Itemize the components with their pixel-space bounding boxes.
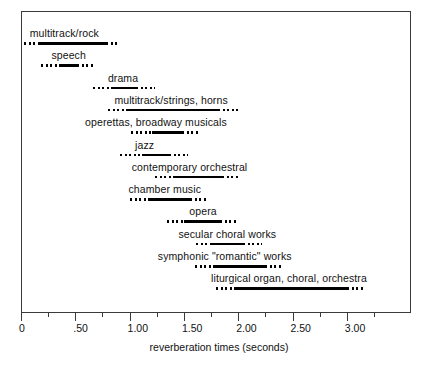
- axis-tick-label: 1.00: [128, 322, 148, 335]
- plot-frame: [21, 11, 411, 313]
- axis-tick-major: [21, 313, 22, 321]
- axis-tick-label: 2.00: [236, 322, 256, 335]
- x-axis-tick-labels: 0.501.001.502.002.503.00: [0, 322, 438, 338]
- chart-container: multitrack/rockspeechdramamultitrack/str…: [0, 0, 438, 372]
- x-axis-title: reverberation times (seconds): [0, 341, 438, 353]
- axis-tick-label: 3.00: [345, 322, 365, 335]
- axis-tick-label: 1.50: [182, 322, 202, 335]
- axis-tick-major: [347, 313, 348, 321]
- axis-tick-label: 2.50: [291, 322, 311, 335]
- axis-tick-minor: [265, 313, 266, 317]
- axis-tick-major: [130, 313, 131, 321]
- axis-tick-major: [238, 313, 239, 321]
- axis-tick-minor: [102, 313, 103, 317]
- axis-tick-minor: [374, 313, 375, 317]
- axis-tick-major: [293, 313, 294, 321]
- axis-tick-minor: [211, 313, 212, 317]
- axis-tick-label: .50: [73, 322, 88, 335]
- axis-tick-minor: [320, 313, 321, 317]
- axis-tick-major: [75, 313, 76, 321]
- x-axis-ticks: [21, 313, 411, 322]
- axis-tick-minor: [157, 313, 158, 317]
- axis-tick-major: [184, 313, 185, 321]
- axis-tick-label: 0: [19, 322, 25, 335]
- axis-tick-minor: [48, 313, 49, 317]
